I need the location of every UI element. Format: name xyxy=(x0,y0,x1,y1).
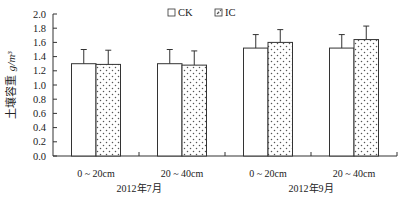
legend-swatch-ck xyxy=(168,9,175,16)
y-axis: 0.00.20.40.60.81.01.21.41.61.82.0 xyxy=(33,9,57,162)
category-label: 0 ~ 20cm xyxy=(249,168,287,179)
bars xyxy=(72,26,379,156)
bar-ic xyxy=(182,65,207,156)
y-tick-label: 0.8 xyxy=(33,94,46,105)
y-tick-label: 1.2 xyxy=(33,65,46,76)
y-tick-label: 0.4 xyxy=(33,122,47,133)
group-label: 2012年9月 xyxy=(289,182,334,194)
legend-label-ck: CK xyxy=(178,7,193,18)
y-tick-label: 0.6 xyxy=(33,108,46,119)
bar-ic xyxy=(96,64,121,156)
bar-ck xyxy=(158,64,183,156)
y-tick-label: 1.6 xyxy=(33,37,46,48)
bar-ic xyxy=(268,42,293,156)
y-tick-label: 1.4 xyxy=(33,51,47,62)
category-labels: 0 ~ 20cm20 ~ 40cm0 ~ 20cm20 ~ 40cm xyxy=(77,168,375,179)
y-axis-label: 土壤容重 g/m³ xyxy=(4,51,18,119)
legend-label-ic: IC xyxy=(225,7,236,18)
legend: CKIC xyxy=(168,7,236,18)
y-tick-label: 1.0 xyxy=(33,80,46,91)
bar-ck xyxy=(330,48,355,156)
y-axis-title: 土壤容重 g/m³ xyxy=(4,51,18,119)
category-label: 0 ~ 20cm xyxy=(77,168,115,179)
category-label: 20 ~ 40cm xyxy=(333,168,376,179)
y-tick-label: 2.0 xyxy=(33,9,46,20)
bar-ck xyxy=(244,48,269,156)
bar-chart: 土壤容重 g/m³ 0.00.20.40.60.81.01.21.41.61.8… xyxy=(0,0,404,207)
y-tick-label: 0.0 xyxy=(33,151,46,162)
group-labels: 2012年7月2012年9月 xyxy=(117,182,334,194)
y-tick-label: 0.2 xyxy=(33,136,46,147)
group-label: 2012年7月 xyxy=(117,182,162,194)
category-label: 20 ~ 40cm xyxy=(161,168,204,179)
y-tick-label: 1.8 xyxy=(33,23,46,34)
bar-ck xyxy=(72,64,97,156)
bar-ic xyxy=(354,40,379,156)
